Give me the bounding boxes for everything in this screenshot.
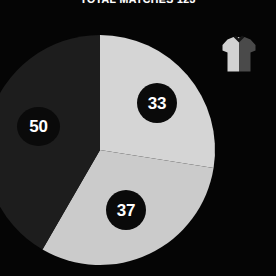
jersey-icon xyxy=(221,34,257,74)
pie-label-33: 33 xyxy=(137,83,177,123)
chart-canvas: TOTAL MATCHES 123 50 33 37 xyxy=(0,0,276,276)
pie-label-37: 37 xyxy=(106,190,146,230)
pie-label-50: 50 xyxy=(17,107,60,146)
